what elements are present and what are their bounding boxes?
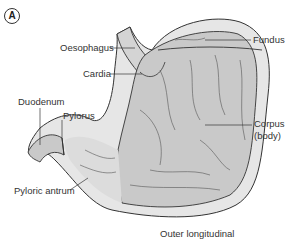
label-oesophagus: Oesophagus [60,42,114,53]
label-cardia: Cardia [83,68,111,79]
figure-caption: Outer longitudinal [160,228,234,239]
stomach-anatomy-figure: A Oesophagus Cardia Fundus Duodenum Pylo… [0,0,291,240]
label-pyloric-antrum: Pyloric antrum [14,185,75,196]
label-corpus: Corpus [254,118,285,129]
label-fundus: Fundus [253,34,285,45]
panel-label-badge: A [4,8,20,24]
label-duodenum: Duodenum [18,96,64,107]
label-corpus-body: (body) [254,130,281,141]
stomach-illustration [0,0,291,240]
label-pylorus: Pylorus [63,110,95,121]
